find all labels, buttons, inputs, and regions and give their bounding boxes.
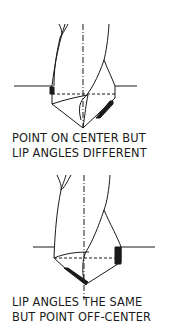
- caption-line: LIP ANGLES DIFFERENT: [12, 146, 147, 161]
- caption-line: POINT ON CENTER BUT: [12, 131, 147, 146]
- drill-diagram-1: [0, 0, 181, 331]
- caption-line: BUT POINT OFF-CENTER: [12, 310, 151, 325]
- drill-off-center-equal-lips: [33, 175, 155, 300]
- drill-on-center-unequal-lips: [14, 24, 137, 128]
- caption-drill-1: POINT ON CENTER BUT LIP ANGLES DIFFERENT: [12, 131, 147, 161]
- caption-drill-2: LIP ANGLES THE SAME BUT POINT OFF-CENTER: [12, 295, 151, 325]
- caption-line: LIP ANGLES THE SAME: [12, 295, 151, 310]
